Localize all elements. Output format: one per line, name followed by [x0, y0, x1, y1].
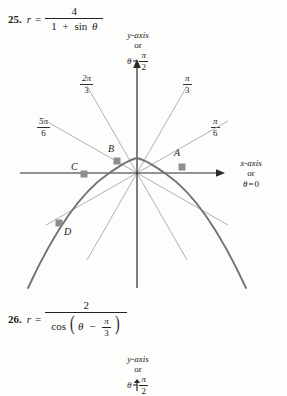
y-axis-arrowhead — [133, 59, 141, 68]
left-paren: ( — [70, 315, 75, 331]
point-marker-A — [179, 164, 186, 171]
plotted-points — [56, 158, 186, 227]
problem-26-fraction: 2 cos ( θ − π 3 ) — [45, 300, 127, 338]
point-marker-B — [114, 158, 121, 165]
problem-26-denominator: cos ( θ − π 3 ) — [45, 313, 127, 338]
right-paren: ) — [115, 315, 120, 331]
pi-over-3-fraction: π 3 — [102, 317, 111, 338]
figure26-y-axis-arrowhead — [134, 379, 140, 383]
problem-26-numerator: 2 — [77, 300, 95, 312]
radial-line-five-pi-over-6 — [46, 121, 137, 173]
problem-26-equation: 26. r = 2 cos ( θ − π 3 ) — [8, 300, 127, 338]
radial-line-eleven-pi-over-6 — [137, 173, 228, 225]
point-marker-C — [81, 171, 88, 178]
figure26-y-axis-label-line2: or — [103, 364, 173, 374]
figure25-polar-plot — [0, 0, 287, 290]
figure26-y-axis-label-line1: y-axis — [103, 354, 173, 364]
figure26-partial-axis — [0, 379, 287, 391]
radial-line-seven-pi-over-6 — [46, 173, 137, 225]
point-marker-D — [56, 220, 63, 227]
coordinate-axes — [20, 59, 225, 288]
problem-26-number: 26. — [8, 313, 22, 325]
problem-26-lhs: r — [27, 313, 31, 325]
problem-26-equals: = — [35, 313, 41, 325]
x-axis-arrowhead — [216, 169, 225, 177]
